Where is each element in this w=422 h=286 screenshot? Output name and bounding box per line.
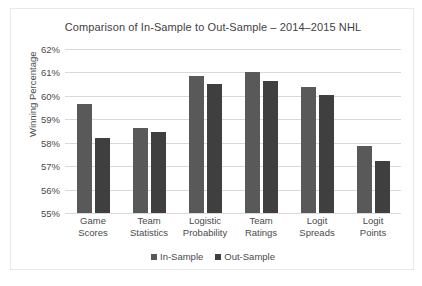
- y-axis-tick-label: 55%: [41, 208, 60, 219]
- bar-out-sample-team-ratings: [263, 81, 278, 213]
- category-label: TeamStatistics: [121, 215, 177, 239]
- bar-out-sample-logistic-probability: [207, 84, 222, 213]
- bar-in-sample-logistic-probability: [189, 76, 204, 213]
- y-axis-tick-label: 57%: [41, 161, 60, 172]
- bar-out-sample-game-scores: [95, 138, 110, 213]
- bar-out-sample-team-statistics: [151, 132, 166, 213]
- bars-layer: [65, 49, 401, 213]
- legend-swatch-icon: [215, 254, 221, 260]
- category-label: GameScores: [65, 215, 121, 239]
- category-axis-labels: GameScoresTeamStatisticsLogisticProbabil…: [65, 215, 401, 249]
- y-axis-tick-label: 59%: [41, 114, 60, 125]
- bar-in-sample-logit-points: [357, 146, 372, 213]
- y-axis-title: Winning Percentage: [27, 51, 38, 137]
- category-label: LogitPoints: [345, 215, 401, 239]
- y-axis-tick-label: 60%: [41, 90, 60, 101]
- bar-in-sample-team-statistics: [133, 128, 148, 214]
- plot-area: 62%61%60%59%58%57%56%55%: [65, 49, 401, 213]
- y-axis-tick-label: 61%: [41, 67, 60, 78]
- legend-label: Out-Sample: [224, 251, 275, 262]
- bar-out-sample-logit-points: [375, 161, 390, 213]
- category-label: TeamRatings: [233, 215, 289, 239]
- chart-legend: In-SampleOut-Sample: [11, 251, 415, 262]
- y-axis-tick-label: 58%: [41, 137, 60, 148]
- y-axis-tick-label: 62%: [41, 44, 60, 55]
- legend-item-out-sample[interactable]: Out-Sample: [215, 251, 275, 262]
- legend-swatch-icon: [151, 254, 157, 260]
- bar-in-sample-team-ratings: [245, 72, 260, 213]
- legend-item-in-sample[interactable]: In-Sample: [151, 251, 203, 262]
- bar-in-sample-game-scores: [77, 104, 92, 213]
- bar-in-sample-logit-spreads: [301, 87, 316, 214]
- y-axis-tick-label: 56%: [41, 184, 60, 195]
- category-label: LogitSpreads: [289, 215, 345, 239]
- chart-title: Comparison of In-Sample to Out-Sample – …: [11, 21, 415, 33]
- legend-label: In-Sample: [160, 251, 203, 262]
- bar-out-sample-logit-spreads: [319, 95, 334, 213]
- chart-figure: Comparison of In-Sample to Out-Sample – …: [10, 8, 414, 270]
- category-label: LogisticProbability: [177, 215, 233, 239]
- gridline: [65, 213, 401, 214]
